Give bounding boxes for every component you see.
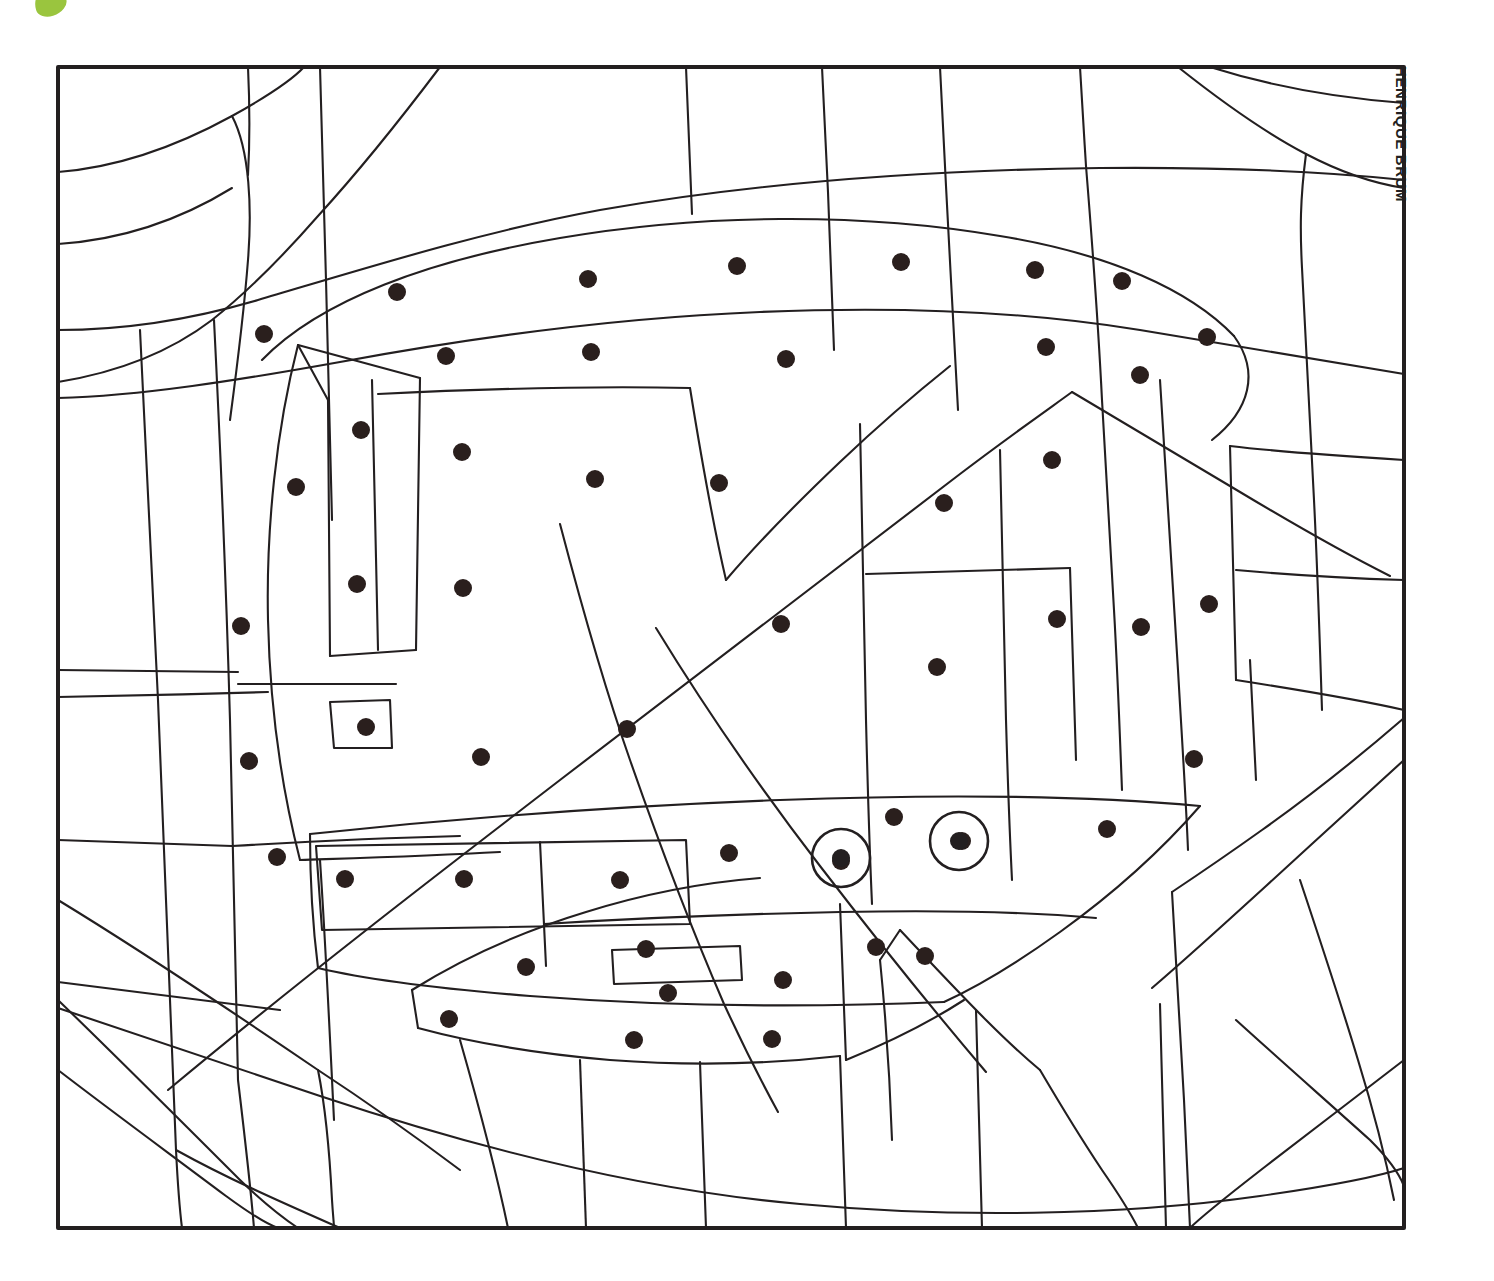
puzzle-artboard (0, 0, 1494, 1281)
dot-marker (579, 270, 597, 288)
dot-marker (454, 579, 472, 597)
dot-marker (287, 478, 305, 496)
dot-marker (357, 718, 375, 736)
dot-marker (928, 658, 946, 676)
dot-marker (885, 808, 903, 826)
dot-marker (1198, 328, 1216, 346)
dot-marker (1043, 451, 1061, 469)
dot-marker (586, 470, 604, 488)
dot-marker (1037, 338, 1055, 356)
dot-marker (336, 870, 354, 888)
dot-marker (1132, 618, 1150, 636)
dot-marker (659, 984, 677, 1002)
dot-marker (637, 940, 655, 958)
frame-border (58, 67, 1404, 1228)
dot-marker (352, 421, 370, 439)
dot-marker (240, 752, 258, 770)
dot-marker (935, 494, 953, 512)
region-lines (58, 67, 1404, 1228)
dot-marker (618, 720, 636, 738)
dot-marker (916, 947, 934, 965)
dot-marker (1131, 366, 1149, 384)
dot-marker (472, 748, 490, 766)
dot-marker (1026, 261, 1044, 279)
dot-marker (774, 971, 792, 989)
dot-marker (777, 350, 795, 368)
dot-marker (763, 1030, 781, 1048)
dot-marker (232, 617, 250, 635)
dot-marker (440, 1010, 458, 1028)
dot-marker (517, 958, 535, 976)
dot-marker (348, 575, 366, 593)
dot-marker (453, 443, 471, 461)
dot-marker (1185, 750, 1203, 768)
dot-marker (832, 849, 850, 867)
dot-marker (455, 870, 473, 888)
dot-marker (710, 474, 728, 492)
dot-marker (950, 832, 968, 850)
dot-marker (867, 938, 885, 956)
puzzle-line-art (0, 0, 1494, 1281)
dot-marker (892, 253, 910, 271)
dot-marker (625, 1031, 643, 1049)
dot-marker (268, 848, 286, 866)
dot-marker (1113, 272, 1131, 290)
dot-marker (611, 871, 629, 889)
dot-marker (255, 325, 273, 343)
dot-marker (388, 283, 406, 301)
dot-marker (720, 844, 738, 862)
dot-marker (772, 615, 790, 633)
dot-marker (1200, 595, 1218, 613)
dot-marker (1048, 610, 1066, 628)
dot-marker (1098, 820, 1116, 838)
coloring-page: HENRIQUE BRUM (0, 0, 1494, 1281)
dot-marker (582, 343, 600, 361)
dot-marker (728, 257, 746, 275)
dot-marker (437, 347, 455, 365)
